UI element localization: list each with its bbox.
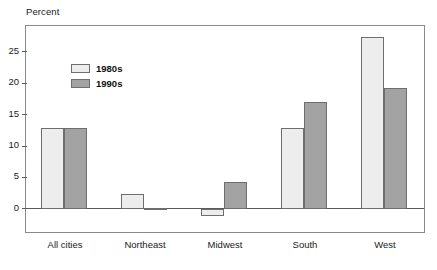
y-axis-tick-labels: 0510152025	[0, 25, 19, 233]
legend-label: 1980s	[96, 63, 122, 74]
legend-label: 1990s	[96, 78, 122, 89]
bar-chart-figure: Percent 0510152025 1980s 1990s All citie…	[0, 0, 437, 270]
y-axis-tick-label: 15	[8, 108, 19, 119]
x-axis-category-label: All cities	[25, 239, 105, 250]
chart-legend: 1980s 1990s	[71, 62, 122, 92]
light-gray-swatch-icon	[71, 64, 90, 73]
legend-item-1990s: 1990s	[71, 77, 122, 90]
y-axis-tick-mark	[22, 146, 27, 147]
y-axis-tick-mark	[22, 208, 27, 209]
bar	[121, 194, 144, 208]
x-axis-category-label: Midwest	[185, 239, 265, 250]
x-axis-category-label: Northeast	[105, 239, 185, 250]
y-axis-tick-mark	[22, 83, 27, 84]
y-axis-tick-mark	[22, 177, 27, 178]
y-axis-tick-label: 0	[14, 202, 19, 213]
bar	[281, 128, 304, 208]
bar	[64, 128, 87, 208]
plot-frame: 1980s 1990s	[25, 25, 425, 233]
bar	[304, 102, 327, 209]
bar	[224, 182, 247, 209]
y-axis-tick-label: 25	[8, 45, 19, 56]
bar	[41, 128, 64, 208]
y-axis-tick-mark	[22, 51, 27, 52]
y-axis-tick-mark	[22, 114, 27, 115]
bar	[361, 37, 384, 209]
plot-area	[26, 26, 424, 232]
bar	[201, 209, 224, 217]
y-axis-tick-label: 5	[14, 170, 19, 181]
dark-gray-swatch-icon	[71, 79, 90, 88]
y-axis-tick-label: 20	[8, 76, 19, 87]
footnote-strip	[28, 262, 358, 268]
x-axis-category-label: West	[345, 239, 425, 250]
bar	[384, 88, 407, 209]
x-axis-category-label: South	[265, 239, 345, 250]
y-axis-title: Percent	[26, 6, 59, 17]
y-axis-tick-label: 10	[8, 139, 19, 150]
legend-item-1980s: 1980s	[71, 62, 122, 75]
bar	[144, 208, 167, 210]
